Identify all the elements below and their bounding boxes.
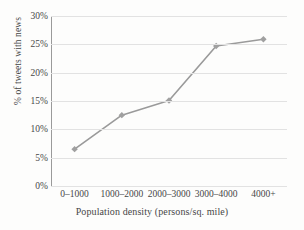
y-axis-tick-label: 25% <box>18 39 48 49</box>
gridline <box>51 16 287 17</box>
y-axis-tick-label: 5% <box>18 153 48 163</box>
y-axis-tick-label: 0% <box>18 181 48 191</box>
gridline <box>51 101 287 102</box>
data-point-marker <box>260 36 266 42</box>
x-axis-tick-label: 1000–2000 <box>100 189 143 199</box>
line-chart-figure: % of tweets with news 0%5%10%15%20%25%30… <box>0 0 304 230</box>
gridline <box>51 158 287 159</box>
series-line <box>75 39 264 149</box>
plot-area <box>51 16 287 186</box>
y-axis-tick-label: 15% <box>18 96 48 106</box>
x-axis-tick-label: 3000–4000 <box>195 189 238 199</box>
x-axis-tick-label: 0–1000 <box>60 189 89 199</box>
x-axis-tick-labels: 0–10001000–20002000–30003000–40004000+ <box>51 189 287 205</box>
x-axis-tick-label: 2000–3000 <box>148 189 191 199</box>
y-axis-tick-label: 10% <box>18 124 48 134</box>
y-axis-tick-label: 20% <box>18 68 48 78</box>
gridline <box>51 186 287 187</box>
y-axis-tick-label: 30% <box>18 11 48 21</box>
gridline <box>51 44 287 45</box>
x-axis-title: Population density (persons/sq. mile) <box>0 206 304 217</box>
y-axis-tick-labels: 0%5%10%15%20%25%30% <box>18 0 48 230</box>
x-axis-tick-label: 4000+ <box>251 189 275 199</box>
gridline <box>51 73 287 74</box>
gridline <box>51 129 287 130</box>
